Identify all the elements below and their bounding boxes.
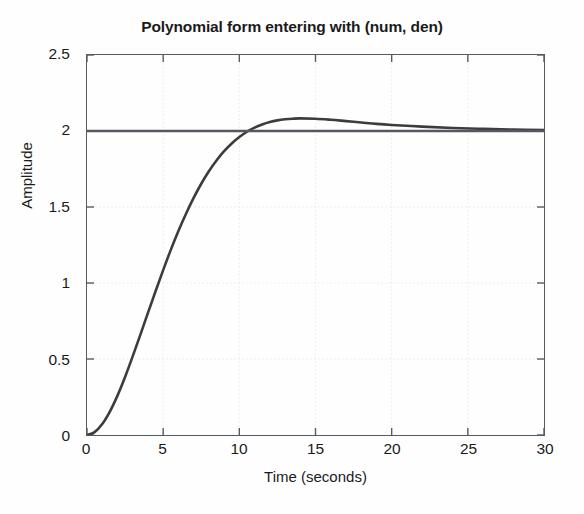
x-tick-label: 5 bbox=[158, 440, 167, 458]
y-tick-label: 2.5 bbox=[48, 45, 70, 63]
x-axis-title: Time (seconds) bbox=[86, 468, 545, 485]
y-tick-label: 1 bbox=[61, 274, 70, 292]
plot-area[interactable] bbox=[86, 54, 545, 436]
x-tick-label: 0 bbox=[82, 440, 91, 458]
x-tick-label: 15 bbox=[307, 440, 324, 458]
x-tick-label: 25 bbox=[460, 440, 477, 458]
x-tick-label: 20 bbox=[383, 440, 400, 458]
x-axis-tick-labels: 051015202530 bbox=[86, 440, 545, 466]
chart-title: Polynomial form entering with (num, den) bbox=[0, 18, 584, 36]
y-tick-label: 0.5 bbox=[48, 351, 70, 369]
data-layer bbox=[87, 55, 544, 435]
figure-canvas: Polynomial form entering with (num, den)… bbox=[0, 0, 584, 514]
y-tick-label: 2 bbox=[61, 121, 70, 139]
y-tick-label: 0 bbox=[61, 427, 70, 445]
x-tick-label: 10 bbox=[230, 440, 247, 458]
y-axis-tick-labels: 00.511.522.5 bbox=[0, 54, 80, 436]
series-line-0 bbox=[87, 118, 544, 435]
x-tick-label: 30 bbox=[536, 440, 553, 458]
y-axis-title: Amplitude bbox=[18, 106, 35, 246]
y-tick-label: 1.5 bbox=[48, 198, 70, 216]
